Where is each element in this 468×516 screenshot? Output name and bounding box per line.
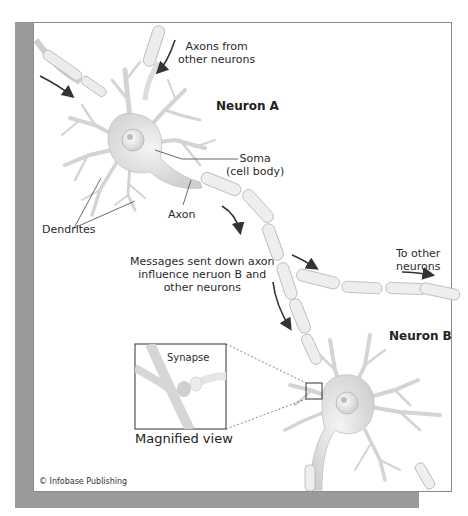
copyright-text: © Infobase Publishing (39, 475, 127, 488)
to-other-line1: To other (396, 247, 440, 260)
to-other-line2: neurons (396, 260, 440, 273)
messages-line2: influence neruon B and (130, 268, 275, 281)
axons-from-line2: other neurons (178, 53, 255, 66)
label-messages: Messages sent down axon influence neruon… (130, 255, 275, 294)
arrow-axon-down-icon (222, 206, 240, 232)
label-neuron-b: Neuron B (389, 330, 452, 343)
label-magnified-view: Magnified view (135, 432, 233, 445)
arrow-axons-left-icon (40, 76, 72, 96)
label-axons-from-other-neurons: Axons from other neurons (178, 40, 255, 66)
arrow-branch-icon (292, 255, 316, 268)
incoming-axons (36, 24, 166, 100)
label-neuron-a: Neuron A (216, 100, 279, 113)
label-axon: Axon (168, 208, 195, 221)
axons-from-line1: Axons from (178, 40, 255, 53)
label-synapse: Synapse (167, 351, 209, 364)
label-dendrites: Dendrites (42, 223, 96, 236)
label-to-other-neurons: To other neurons (396, 247, 440, 273)
messages-line1: Messages sent down axon (130, 255, 275, 268)
messages-line3: other neurons (130, 281, 275, 294)
label-soma: Soma (cell body) (226, 152, 284, 178)
soma-line1: Soma (226, 152, 284, 165)
soma-line2: (cell body) (226, 165, 284, 178)
